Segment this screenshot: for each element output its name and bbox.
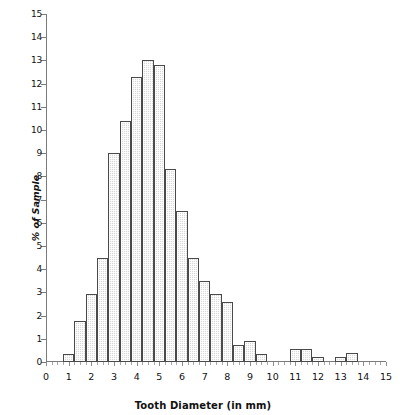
x-minor-tick	[233, 362, 234, 365]
y-tick-label: 0	[36, 357, 42, 367]
x-minor-tick	[290, 362, 291, 365]
x-minor-tick	[312, 362, 313, 365]
x-tick	[114, 362, 115, 366]
x-tick-label: 7	[202, 371, 208, 382]
x-minor-tick	[307, 362, 308, 365]
x-tick-label: 15	[380, 371, 392, 382]
x-minor-tick	[154, 362, 155, 365]
x-tick	[205, 362, 206, 366]
x-minor-tick	[239, 362, 240, 365]
histogram-bar	[176, 211, 187, 362]
x-minor-tick	[380, 362, 381, 365]
x-minor-tick	[278, 362, 279, 365]
histogram-bar	[142, 60, 153, 362]
x-minor-tick	[256, 362, 257, 365]
x-minor-tick	[244, 362, 245, 365]
x-minor-tick	[261, 362, 262, 365]
x-tick-label: 10	[267, 371, 279, 382]
y-axis-line	[46, 14, 47, 362]
histogram-bar	[74, 321, 85, 362]
x-minor-tick	[222, 362, 223, 365]
x-tick-label: 2	[88, 371, 94, 382]
x-tick	[250, 362, 251, 366]
x-tick-label: 0	[43, 371, 49, 382]
y-tick-label: 3	[36, 287, 42, 297]
x-tick-label: 12	[312, 371, 324, 382]
x-minor-tick	[188, 362, 189, 365]
x-minor-tick	[199, 362, 200, 365]
y-tick-label: 11	[31, 102, 42, 112]
x-tick-label: 3	[111, 371, 117, 382]
x-minor-tick	[108, 362, 109, 365]
x-tick	[318, 362, 319, 366]
y-tick-label: 12	[31, 79, 42, 89]
y-tick-label: 2	[36, 311, 42, 321]
y-tick-label: 5	[36, 241, 42, 251]
histogram-bar	[335, 357, 346, 362]
x-minor-tick	[335, 362, 336, 365]
y-tick-label: 9	[36, 148, 42, 158]
histogram-bar	[312, 357, 323, 362]
x-tick-label: 6	[179, 371, 185, 382]
x-minor-tick	[74, 362, 75, 365]
histogram-bar	[120, 121, 131, 362]
x-tick-label: 14	[357, 371, 369, 382]
x-minor-tick	[171, 362, 172, 365]
x-minor-tick	[165, 362, 166, 365]
y-tick-label: 6	[36, 218, 42, 228]
x-minor-tick	[80, 362, 81, 365]
histogram-bar	[97, 258, 108, 362]
x-minor-tick	[148, 362, 149, 365]
y-tick-label: 4	[36, 264, 42, 274]
histogram-bar	[233, 345, 244, 362]
x-minor-tick	[216, 362, 217, 365]
x-minor-tick	[352, 362, 353, 365]
x-minor-tick	[284, 362, 285, 365]
x-tick	[91, 362, 92, 366]
histogram-bar	[199, 281, 210, 362]
x-tick	[363, 362, 364, 366]
x-minor-tick	[176, 362, 177, 365]
x-minor-tick	[329, 362, 330, 365]
x-tick-label: 8	[224, 371, 230, 382]
x-tick-label: 9	[247, 371, 253, 382]
x-minor-tick	[103, 362, 104, 365]
x-tick	[227, 362, 228, 366]
histogram-chart: % of Sample 0123456789101112131415 01234…	[0, 0, 406, 415]
x-minor-tick	[57, 362, 58, 365]
x-minor-tick	[375, 362, 376, 365]
histogram-bar	[210, 294, 221, 362]
x-minor-tick	[63, 362, 64, 365]
histogram-bar	[131, 77, 142, 362]
y-tick-label: 1	[36, 334, 42, 344]
histogram-bar	[86, 294, 97, 362]
x-minor-tick	[142, 362, 143, 365]
x-minor-tick	[52, 362, 53, 365]
histogram-bar	[63, 354, 74, 362]
y-tick-label: 10	[31, 125, 42, 135]
y-tick-label: 15	[31, 9, 42, 19]
x-minor-tick	[97, 362, 98, 365]
x-minor-tick	[125, 362, 126, 365]
histogram-bar	[108, 153, 119, 362]
y-axis-title: % of Sample	[30, 174, 41, 240]
plot-area: 0123456789101112131415 01234567891011121…	[46, 14, 386, 362]
x-tick	[69, 362, 70, 366]
x-tick-label: 5	[156, 371, 162, 382]
histogram-bar	[188, 258, 199, 362]
x-tick	[295, 362, 296, 366]
x-tick	[137, 362, 138, 366]
x-minor-tick	[346, 362, 347, 365]
histogram-bar	[290, 349, 301, 362]
histogram-bar	[244, 341, 255, 362]
x-minor-tick	[210, 362, 211, 365]
x-tick	[341, 362, 342, 366]
x-tick	[46, 362, 47, 366]
x-tick-label: 11	[289, 371, 301, 382]
x-minor-tick	[301, 362, 302, 365]
y-tick-label: 7	[36, 195, 42, 205]
histogram-bar	[346, 353, 357, 362]
x-minor-tick	[369, 362, 370, 365]
x-minor-tick	[120, 362, 121, 365]
histogram-bar	[256, 354, 267, 362]
